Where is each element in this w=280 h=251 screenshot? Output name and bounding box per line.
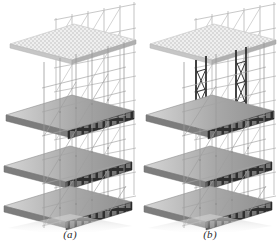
scaffold-scene-b — [140, 0, 280, 232]
figure-container: (a) — [0, 0, 280, 251]
slab-level-4-a — [10, 24, 136, 64]
figure-panel-a: (a) — [0, 0, 140, 251]
slab-level-3-a — [6, 95, 134, 139]
scaffold-scene-a — [0, 0, 140, 232]
panel-caption-a: (a) — [0, 228, 140, 240]
panel-caption-b: (b) — [140, 228, 280, 240]
figure-panel-b: (b) — [140, 0, 280, 251]
slab-level-4-b — [150, 24, 276, 64]
slab-level-3-b — [146, 95, 274, 139]
